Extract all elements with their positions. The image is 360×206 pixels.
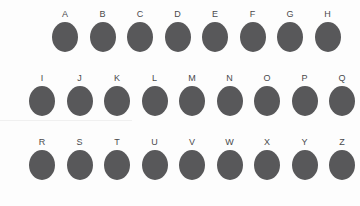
dot-label-o: O	[252, 74, 282, 83]
dot-circle-d[interactable]	[165, 22, 191, 52]
dot-circle-h[interactable]	[315, 22, 341, 52]
dot-label-l: L	[140, 74, 170, 83]
dot-label-h: H	[313, 10, 343, 19]
dot-label-z: Z	[327, 138, 357, 147]
dot-circle-p[interactable]	[292, 86, 318, 116]
dot-row-2: IJKLMNOPQ	[0, 74, 360, 138]
dot-row-1: ABCDEFGH	[0, 10, 360, 74]
dot-label-w: W	[215, 138, 245, 147]
dot-circle-u[interactable]	[142, 150, 168, 180]
dot-circle-g[interactable]	[277, 22, 303, 52]
dot-label-n: N	[215, 74, 245, 83]
dot-label-y: Y	[290, 138, 320, 147]
dot-label-s: S	[65, 138, 95, 147]
dot-label-b: B	[88, 10, 118, 19]
dot-label-x: X	[252, 138, 282, 147]
dot-circle-b[interactable]	[90, 22, 116, 52]
dot-circle-m[interactable]	[179, 86, 205, 116]
dot-circle-n[interactable]	[217, 86, 243, 116]
dot-label-i: I	[27, 74, 57, 83]
dot-circle-w[interactable]	[217, 150, 243, 180]
dot-circle-j[interactable]	[67, 86, 93, 116]
dot-circle-y[interactable]	[292, 150, 318, 180]
dot-label-q: Q	[327, 74, 357, 83]
dot-label-m: M	[177, 74, 207, 83]
dot-circle-i[interactable]	[29, 86, 55, 116]
dot-label-f: F	[238, 10, 268, 19]
dot-label-p: P	[290, 74, 320, 83]
dot-circle-k[interactable]	[104, 86, 130, 116]
dot-circle-f[interactable]	[240, 22, 266, 52]
dot-circle-l[interactable]	[142, 86, 168, 116]
dot-circle-z[interactable]	[329, 150, 355, 180]
dot-label-t: T	[102, 138, 132, 147]
dot-circle-e[interactable]	[202, 22, 228, 52]
dot-circle-x[interactable]	[254, 150, 280, 180]
dot-label-g: G	[275, 10, 305, 19]
dot-label-e: E	[200, 10, 230, 19]
dot-circle-o[interactable]	[254, 86, 280, 116]
dot-circle-c[interactable]	[127, 22, 153, 52]
dot-label-r: R	[27, 138, 57, 147]
dot-circle-s[interactable]	[67, 150, 93, 180]
dot-label-d: D	[163, 10, 193, 19]
dot-circle-t[interactable]	[104, 150, 130, 180]
dot-grid-canvas: ABCDEFGHIJKLMNOPQRSTUVWXYZ	[0, 0, 360, 206]
dot-circle-a[interactable]	[52, 22, 78, 52]
dot-label-a: A	[50, 10, 80, 19]
dot-label-j: J	[65, 74, 95, 83]
dot-label-c: C	[125, 10, 155, 19]
dot-label-v: V	[177, 138, 207, 147]
dot-label-k: K	[102, 74, 132, 83]
dot-circle-r[interactable]	[29, 150, 55, 180]
dot-label-u: U	[140, 138, 170, 147]
dot-circle-q[interactable]	[329, 86, 355, 116]
dot-circle-v[interactable]	[179, 150, 205, 180]
dot-row-3: RSTUVWXYZ	[0, 138, 360, 202]
